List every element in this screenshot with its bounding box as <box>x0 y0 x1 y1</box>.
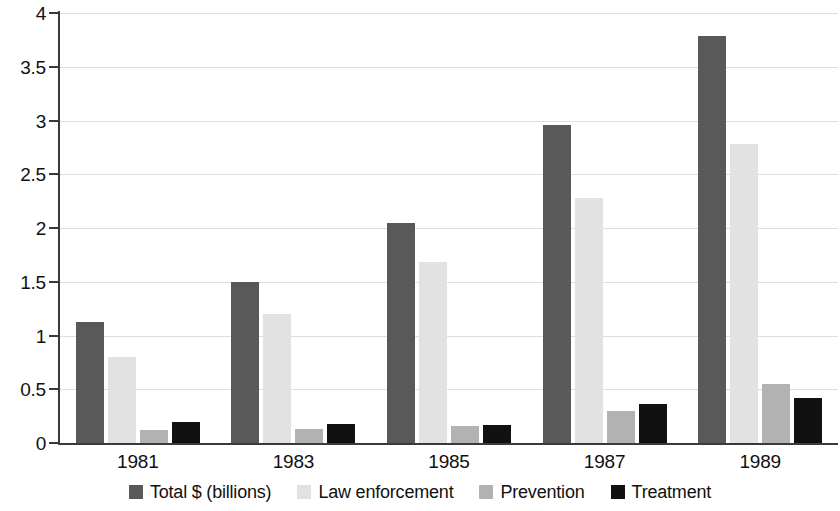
legend-label: Total $ (billions) <box>150 483 271 501</box>
y-axis-tick-label: 4 <box>36 4 46 23</box>
x-axis-tick-label: 1983 <box>273 452 314 471</box>
bar-treatment-1981 <box>172 422 200 444</box>
x-axis-tick-label: 1985 <box>428 452 469 471</box>
legend-item[interactable]: Law enforcement <box>297 483 453 501</box>
y-axis-tick-mark <box>49 66 59 68</box>
y-axis-tick-mark <box>49 388 59 390</box>
bar-total-billions-1985 <box>387 223 415 443</box>
legend-label: Prevention <box>500 483 584 501</box>
bar-prevention-1981 <box>140 430 168 443</box>
y-axis-tick-label: 3.5 <box>20 57 46 76</box>
x-axis-line <box>58 443 838 445</box>
bar-total-billions-1987 <box>543 125 571 443</box>
y-axis-tick-mark <box>49 281 59 283</box>
bar-group <box>231 13 355 443</box>
bar-prevention-1985 <box>451 426 479 443</box>
bar-group <box>76 13 200 443</box>
bar-law-enforcement-1989 <box>730 144 758 443</box>
y-axis-tick-label: 1.5 <box>20 272 46 291</box>
y-axis-labels: 00.511.522.533.54 <box>0 0 46 511</box>
bar-law-enforcement-1983 <box>263 314 291 443</box>
bar-law-enforcement-1981 <box>108 357 136 443</box>
bar-law-enforcement-1985 <box>419 262 447 443</box>
bar-treatment-1987 <box>639 404 667 443</box>
legend-item[interactable]: Prevention <box>479 483 584 501</box>
legend-swatch-icon <box>297 485 311 499</box>
bar-treatment-1989 <box>794 398 822 443</box>
legend-swatch-icon <box>129 485 143 499</box>
x-axis-tick-label: 1989 <box>739 452 780 471</box>
y-axis-tick-mark <box>49 12 59 14</box>
legend-item[interactable]: Total $ (billions) <box>129 483 271 501</box>
legend-label: Treatment <box>632 483 712 501</box>
bar-prevention-1989 <box>762 384 790 443</box>
plot-area <box>60 13 838 443</box>
y-axis-tick-label: 0.5 <box>20 380 46 399</box>
bar-prevention-1983 <box>295 429 323 443</box>
y-axis-tick-label: 2 <box>36 219 46 238</box>
legend-swatch-icon <box>479 485 493 499</box>
y-axis-tick-mark <box>49 173 59 175</box>
bar-chart: 00.511.522.533.54 19811983198519871989 T… <box>0 0 840 511</box>
y-axis-tick-label: 2.5 <box>20 165 46 184</box>
y-axis-tick-mark <box>49 120 59 122</box>
legend-item[interactable]: Treatment <box>611 483 712 501</box>
x-axis-tick-label: 1981 <box>117 452 158 471</box>
y-axis-tick-mark <box>49 335 59 337</box>
y-axis-tick-label: 0 <box>36 434 46 453</box>
y-axis-tick-label: 3 <box>36 111 46 130</box>
bar-group <box>698 13 822 443</box>
legend-label: Law enforcement <box>318 483 453 501</box>
y-axis-tick-mark <box>49 227 59 229</box>
bar-total-billions-1983 <box>231 282 259 443</box>
bar-treatment-1985 <box>483 425 511 443</box>
bar-prevention-1987 <box>607 411 635 443</box>
y-axis-tick-mark <box>49 442 59 444</box>
y-axis-tick-label: 1 <box>36 326 46 345</box>
bar-group <box>387 13 511 443</box>
bar-group <box>543 13 667 443</box>
bar-law-enforcement-1987 <box>575 198 603 443</box>
legend-swatch-icon <box>611 485 625 499</box>
bar-treatment-1983 <box>327 424 355 443</box>
x-axis-tick-label: 1987 <box>584 452 625 471</box>
bar-total-billions-1989 <box>698 36 726 443</box>
chart-legend: Total $ (billions)Law enforcementPrevent… <box>0 483 840 501</box>
bar-total-billions-1981 <box>76 322 104 443</box>
